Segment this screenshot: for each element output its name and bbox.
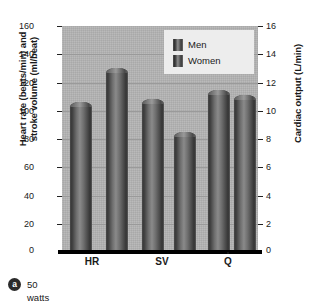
tick-right-6 <box>258 167 263 168</box>
tick-label-right-14: 14 <box>266 50 290 59</box>
tick-label-right-0: 0 <box>266 246 290 255</box>
bar-hr-men[interactable] <box>70 102 92 252</box>
tick-left-40 <box>57 196 62 197</box>
tick-label-left-0: 0 <box>4 246 34 255</box>
bar-q-men[interactable] <box>208 90 230 252</box>
bar-hr-women[interactable] <box>106 68 128 252</box>
tick-label-right-8: 8 <box>266 135 290 144</box>
figure-panel: Men Women 160 140 120 100 80 60 40 20 0 … <box>0 0 320 304</box>
y-axis-right-title: Cardiac output (L/min) <box>292 19 303 169</box>
legend-label-men: Men <box>188 38 206 51</box>
tick-label-right-16: 16 <box>266 22 290 31</box>
tick-label-right-10: 10 <box>266 107 290 116</box>
tick-label-right-6: 6 <box>266 163 290 172</box>
tick-left-140 <box>57 54 62 55</box>
bar-q-women[interactable] <box>234 95 256 252</box>
tick-left-100 <box>57 111 62 112</box>
caption-badge-a: a <box>8 278 21 291</box>
tick-right-8 <box>258 139 263 140</box>
category-label-q-text: Q <box>224 256 232 267</box>
tick-left-120 <box>57 83 62 84</box>
bar-sv-women[interactable] <box>174 132 196 252</box>
category-label-q: Q <box>198 256 258 267</box>
legend-swatch-women-icon <box>173 55 183 67</box>
legend: Men Women <box>164 30 254 74</box>
y-axis-left-title-line2: stroke volume (ml/beat) <box>28 37 39 141</box>
tick-label-right-12: 12 <box>266 79 290 88</box>
tick-right-4 <box>258 196 263 197</box>
tick-label-left-20: 20 <box>4 220 34 229</box>
tick-right-16 <box>258 26 263 27</box>
gridline-120 <box>62 83 258 84</box>
tick-right-12 <box>258 83 263 84</box>
tick-left-80 <box>57 139 62 140</box>
x-axis-baseline <box>58 250 262 254</box>
y-axis-left-title-line1: Heart rate (beats/min) and <box>17 32 28 147</box>
category-label-hr: HR <box>62 256 122 267</box>
tick-label-right-4: 4 <box>266 192 290 201</box>
tick-right-2 <box>258 224 263 225</box>
tick-label-right-2: 2 <box>266 220 290 229</box>
tick-left-20 <box>57 224 62 225</box>
caption-text: 50 watts <box>27 278 49 304</box>
tick-left-60 <box>57 167 62 168</box>
legend-label-women: Women <box>188 54 221 67</box>
bar-sv-men[interactable] <box>142 99 164 252</box>
tick-label-left-40: 40 <box>4 192 34 201</box>
tick-right-10 <box>258 111 263 112</box>
category-label-sv: SV <box>132 256 192 267</box>
tick-left-160 <box>57 26 62 27</box>
y-axis-left-title: Heart rate (beats/min) and stroke volume… <box>17 1 39 177</box>
tick-right-14 <box>258 54 263 55</box>
legend-swatch-men-icon <box>173 39 183 51</box>
